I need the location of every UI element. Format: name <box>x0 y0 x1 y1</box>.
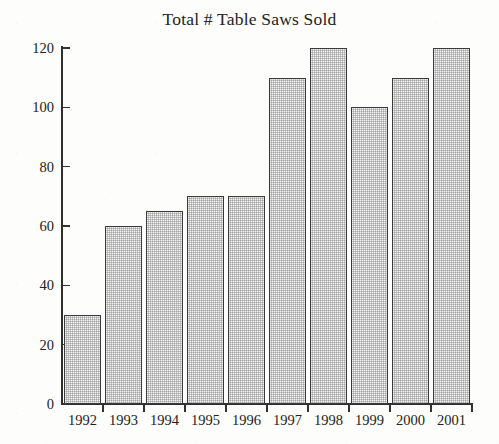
bar-2001 <box>433 48 471 404</box>
x-axis-tick <box>389 404 390 412</box>
x-axis-tick <box>471 404 472 412</box>
y-axis-tick-label: 120 <box>8 40 54 57</box>
x-axis-tick <box>348 404 349 412</box>
bar-1993 <box>105 226 143 404</box>
bar-2000 <box>392 78 430 404</box>
chart-title: Total # Table Saws Sold <box>0 9 499 30</box>
x-axis-tick <box>225 404 226 412</box>
bar-1992 <box>64 315 102 404</box>
x-axis-tick-label: 2000 <box>396 412 425 429</box>
y-axis-tick-label: 80 <box>8 158 54 175</box>
x-axis-tick-label: 1996 <box>232 412 261 429</box>
y-axis-tick-label: 0 <box>8 396 54 413</box>
x-axis-tick-label: 1997 <box>273 412 302 429</box>
y-axis-tick-label: 40 <box>8 277 54 294</box>
y-axis-tick-label: 100 <box>8 99 54 116</box>
plot-area <box>62 48 472 404</box>
x-axis-tick-label: 1995 <box>191 412 220 429</box>
bar-1998 <box>310 48 348 404</box>
bar-chart-figure: Total # Table Saws Sold 020406080100120 … <box>0 0 499 444</box>
x-axis-tick-label: 1998 <box>314 412 343 429</box>
x-axis-tick <box>184 404 185 412</box>
bar-1996 <box>228 196 266 404</box>
y-axis-tick-label: 20 <box>8 336 54 353</box>
x-axis-tick-label: 2001 <box>437 412 466 429</box>
x-axis-tick-label: 1999 <box>355 412 384 429</box>
x-axis-tick-label: 1992 <box>68 412 97 429</box>
bar-1995 <box>187 196 225 404</box>
x-axis-tick <box>102 404 103 412</box>
x-axis-tick <box>430 404 431 412</box>
x-axis-tick <box>143 404 144 412</box>
x-axis-tick-label: 1993 <box>109 412 138 429</box>
x-axis-tick-label: 1994 <box>150 412 179 429</box>
y-axis-tick-label: 60 <box>8 218 54 235</box>
x-axis-tick <box>307 404 308 412</box>
x-axis-tick <box>266 404 267 412</box>
bar-1994 <box>146 211 184 404</box>
bar-1999 <box>351 107 389 404</box>
bar-1997 <box>269 78 307 404</box>
